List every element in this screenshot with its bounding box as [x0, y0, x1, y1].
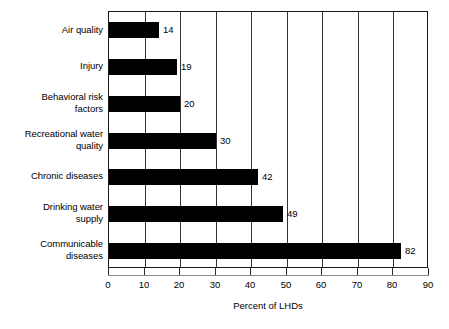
bar-value-label: 42 [262, 169, 273, 185]
x-tick-40 [250, 268, 251, 275]
x-axis-line [108, 275, 429, 276]
x-tick-label-0: 0 [96, 279, 120, 290]
category-label: Communicablediseases [0, 238, 103, 261]
x-tick-60 [321, 268, 322, 275]
bar-value-label: 20 [184, 96, 195, 112]
gridline-x-80 [393, 12, 394, 267]
x-tick-label-40: 40 [238, 279, 262, 290]
x-tick-50 [286, 268, 287, 275]
x-tick-label-50: 50 [274, 279, 298, 290]
category-label: Chronic diseases [0, 170, 103, 182]
x-tick-label-30: 30 [203, 279, 227, 290]
bar [109, 243, 401, 259]
x-tick-80 [392, 268, 393, 275]
bar [109, 59, 177, 75]
bar-value-label: 82 [405, 243, 416, 259]
bar [109, 169, 258, 185]
category-axis: Air qualityInjuryBehavioral riskfactorsR… [0, 11, 103, 268]
plot-area: 14192030424982 [108, 11, 428, 268]
gridline-x-40 [251, 12, 252, 267]
gridline-x-60 [322, 12, 323, 267]
x-tick-label-20: 20 [167, 279, 191, 290]
category-label: Injury [0, 60, 103, 72]
x-tick-label-10: 10 [132, 279, 156, 290]
bar-value-label: 49 [287, 206, 298, 222]
bar [109, 22, 159, 38]
category-label: Air quality [0, 24, 103, 36]
x-tick-label-90: 90 [416, 279, 440, 290]
x-tick-label-80: 80 [380, 279, 404, 290]
bar-value-label: 14 [163, 22, 174, 38]
x-tick-90 [428, 268, 429, 275]
x-tick-70 [357, 268, 358, 275]
bar-chart: Air qualityInjuryBehavioral riskfactorsR… [0, 0, 449, 329]
x-tick-10 [144, 268, 145, 275]
category-label: Behavioral riskfactors [0, 91, 103, 114]
gridline-x-50 [287, 12, 288, 267]
category-label: Drinking watersupply [0, 201, 103, 224]
bar-value-label: 30 [220, 133, 231, 149]
x-tick-label-60: 60 [309, 279, 333, 290]
x-tick-30 [215, 268, 216, 275]
x-tick-label-70: 70 [345, 279, 369, 290]
bar [109, 133, 216, 149]
gridline-x-70 [358, 12, 359, 267]
x-tick-20 [179, 268, 180, 275]
gridline-x-30 [216, 12, 217, 267]
bar [109, 96, 180, 112]
x-tick-0 [108, 268, 109, 275]
bar [109, 206, 283, 222]
bar-value-label: 19 [181, 59, 192, 75]
x-axis-title: Percent of LHDs [148, 300, 388, 311]
category-label: Recreational waterquality [0, 128, 103, 151]
